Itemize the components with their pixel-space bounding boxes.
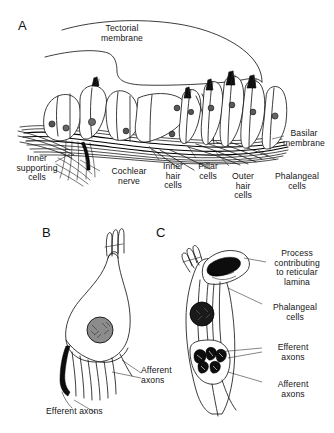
panel-c-artwork — [182, 246, 266, 416]
label-outer-hair-cells: Outer hair cells — [226, 172, 260, 201]
label-inner-hair-cells: Inner hair cells — [156, 162, 190, 191]
nucleus-c — [190, 302, 214, 326]
label-basilar-membrane: Basilar membrane — [274, 129, 334, 148]
label-afferent-axons-c: Afferent axons — [262, 380, 324, 399]
label-efferent-axons-b: Efferent axons — [46, 407, 132, 417]
label-phalangeal-cells-c: Phalangeal cells — [260, 303, 330, 322]
panel-b-artwork — [60, 229, 141, 413]
nucleus-b — [87, 317, 113, 343]
label-tectorial-membrane: Tectorial membrane — [82, 24, 162, 43]
label-efferent-axons-c: Efferent axons — [262, 343, 324, 362]
label-afferent-axons-b: Afferent axons — [141, 366, 193, 385]
inner-supporting-cells-shape — [44, 77, 107, 141]
label-pillar-cells: Pillar cells — [191, 162, 225, 181]
label-cochlear-nerve: Cochlear nerve — [103, 167, 155, 186]
panel-letter-a: A — [18, 19, 27, 32]
panel-letter-b: B — [42, 226, 51, 239]
label-process-reticular-lamina: Process contributing to reticular lamina — [262, 249, 332, 287]
anatomical-figure: A B C Tectorial membrane Basilar membran… — [0, 0, 334, 433]
label-phalangeal-cells-a: Phalangeal cells — [265, 172, 329, 191]
panel-letter-c: C — [156, 226, 165, 239]
label-inner-supporting-cells: Inner supporting cells — [6, 154, 68, 183]
